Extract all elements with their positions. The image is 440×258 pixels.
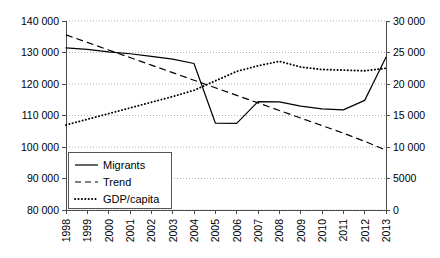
chart-legend: MigrantsTrendGDP/capita — [68, 152, 171, 208]
x-axis-tick-label: 2002 — [145, 219, 157, 243]
right-axis-tick-label: 20 000 — [393, 78, 425, 90]
x-axis-tick-label: 2009 — [295, 219, 307, 243]
right-axis-tick-label: 0 — [393, 204, 399, 216]
left-axis-tick-label: 80 000 — [27, 204, 59, 216]
x-axis-tick-label: 2013 — [380, 219, 392, 243]
left-axis-tick-label: 110 000 — [22, 109, 59, 121]
x-axis-tick-label: 1998 — [60, 219, 72, 243]
x-axis-tick-label: 2011 — [337, 219, 349, 242]
x-axis-tick-label: 2012 — [359, 219, 371, 243]
x-axis-tick-label: 2006 — [231, 219, 243, 243]
left-axis-labels-group: 80 00090 000100 000110 000120 000130 000… — [21, 15, 59, 216]
left-axis-tick-label: 120 000 — [21, 78, 59, 90]
left-axis-tick-label: 130 000 — [21, 46, 59, 58]
left-axis-ticks-group — [62, 21, 66, 210]
legend-label: GDP/capita — [103, 193, 160, 205]
left-axis-tick-label: 90 000 — [27, 172, 59, 184]
x-axis-labels-group: 1998199920002001200220032004200520062007… — [60, 219, 392, 243]
right-axis-tick-label: 15 000 — [393, 109, 425, 121]
right-axis-tick-label: 25 000 — [393, 46, 425, 58]
legend-label: Trend — [103, 176, 131, 188]
right-axis-ticks-group — [386, 21, 390, 210]
x-axis-tick-label: 2010 — [316, 219, 328, 243]
left-axis-tick-label: 100 000 — [21, 141, 59, 153]
x-axis-ticks-group — [66, 210, 386, 214]
migrants-trend-gdp-line-chart: 80 00090 000100 000110 000120 000130 000… — [0, 0, 440, 258]
right-axis-labels-group: 0500010 00015 00020 00025 00030 000 — [393, 15, 425, 216]
right-axis-tick-label: 5000 — [393, 172, 417, 184]
left-axis-tick-label: 140 000 — [21, 15, 59, 27]
x-axis-tick-label: 2007 — [252, 219, 264, 243]
x-axis-tick-label: 2004 — [188, 219, 200, 243]
right-axis-tick-label: 10 000 — [393, 141, 425, 153]
x-axis-tick-label: 2000 — [103, 219, 115, 243]
series-line-migrants — [66, 48, 386, 124]
x-axis-tick-label: 2003 — [167, 219, 179, 243]
x-axis-tick-label: 2001 — [124, 219, 136, 243]
x-axis-tick-label: 2008 — [273, 219, 285, 243]
x-axis-tick-label: 1999 — [81, 219, 93, 243]
right-axis-tick-label: 30 000 — [393, 15, 425, 27]
legend-label: Migrants — [103, 159, 146, 171]
x-axis-tick-label: 2005 — [209, 219, 221, 243]
chart-container: 80 00090 000100 000110 000120 000130 000… — [0, 0, 440, 258]
